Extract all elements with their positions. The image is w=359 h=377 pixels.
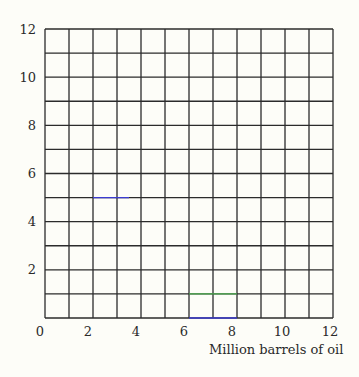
x-tick-label: 8 bbox=[217, 325, 247, 338]
x-tick-label: 0 bbox=[25, 325, 55, 338]
y-tick-label: 2 bbox=[8, 263, 36, 276]
y-tick-label: 12 bbox=[8, 23, 36, 36]
x-tick-label: 6 bbox=[169, 325, 199, 338]
x-tick-label: 10 bbox=[267, 325, 297, 338]
chart-area: 12 10 8 6 4 2 0 2 4 6 8 10 12 Million ba… bbox=[0, 0, 359, 377]
x-tick-label: 2 bbox=[73, 325, 103, 338]
x-tick-label: 12 bbox=[315, 325, 345, 338]
x-tick-label: 4 bbox=[121, 325, 151, 338]
grid-plot bbox=[0, 0, 359, 377]
x-axis-title: Million barrels of oil bbox=[209, 343, 343, 357]
y-tick-label: 4 bbox=[8, 215, 36, 228]
y-tick-label: 8 bbox=[8, 119, 36, 132]
y-tick-label: 6 bbox=[8, 167, 36, 180]
y-tick-label: 10 bbox=[8, 71, 36, 84]
